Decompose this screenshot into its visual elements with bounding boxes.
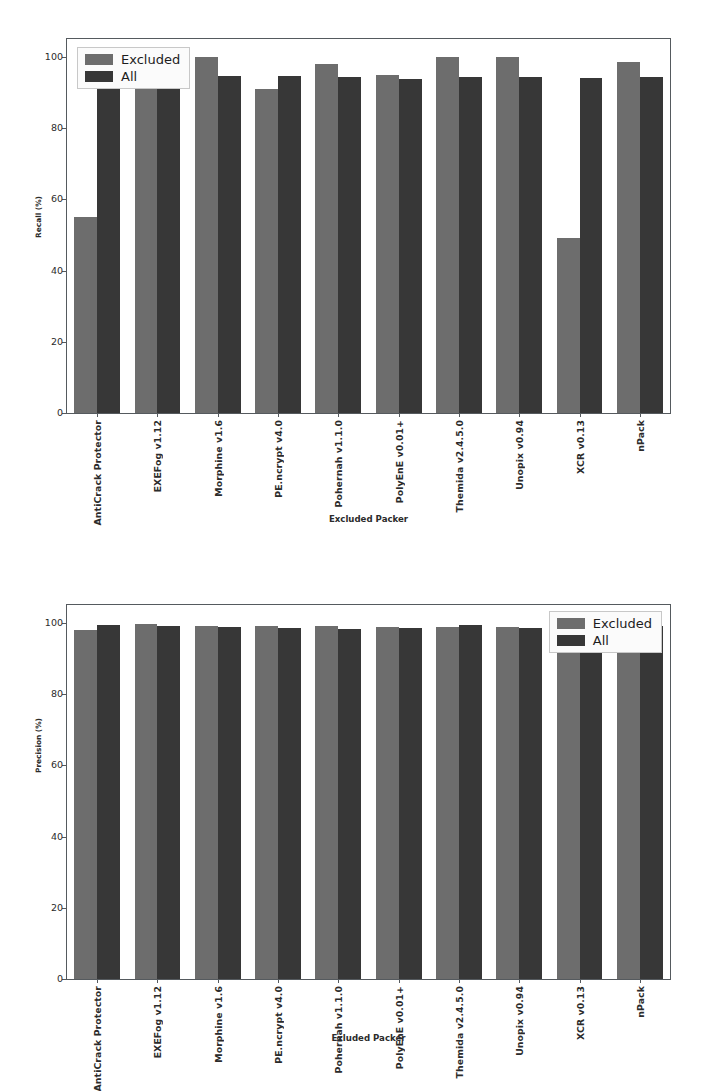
x-tick-label: Morphine v1.6 [213,420,224,497]
bar-all [157,626,180,979]
x-tick-label: PolyEnE v0.01+ [394,420,405,503]
y-tick-label: 0 [57,974,63,984]
bar-all [338,77,361,413]
bar-group [429,605,489,979]
x-tick-mark [218,979,219,983]
y-tick-label: 20 [51,337,63,347]
bar-group [248,605,308,979]
x-tick-mark [519,979,520,983]
x-tick-label: Pohernah v1.1.0 [333,420,344,508]
bar-all [338,629,361,979]
legend-label-excluded: Excluded [121,53,180,66]
x-tick-mark [338,413,339,417]
y-tick-label: 60 [51,761,63,771]
bar-group [308,39,368,413]
bar-excluded [496,57,519,413]
x-tick-mark [97,979,98,983]
bar-group [67,39,127,413]
x-tick-mark [580,413,581,417]
x-tick-label: Pohernah v1.1.0 [333,986,344,1074]
bar-group [188,39,248,413]
bar-excluded [135,69,158,413]
bar-group [549,605,609,979]
bar-all [640,626,663,979]
bar-excluded [315,64,338,413]
bar-group [610,39,670,413]
bar-excluded [195,57,218,413]
bar-excluded [376,627,399,979]
bar-excluded [617,627,640,979]
bar-group [489,39,549,413]
x-tick-mark [157,979,158,983]
x-tick-label: XCR v0.13 [575,420,586,474]
x-tick-mark [519,413,520,417]
x-tick-mark [278,979,279,983]
x-tick-mark [580,979,581,983]
x-tick-label: PE.ncrypt v4.0 [273,986,284,1064]
bar-all [218,76,241,413]
bar-all [459,625,482,979]
precision-axes: Excluded All 020406080100AntiCrack Prote… [66,604,671,980]
bar-excluded [436,627,459,979]
x-tick-mark [278,413,279,417]
legend-entry-all: All [85,70,180,83]
x-tick-mark [399,413,400,417]
bar-group [610,605,670,979]
y-tick-label: 100 [45,52,63,62]
legend-swatch-excluded-icon [85,54,113,65]
x-tick-mark [97,413,98,417]
x-tick-mark [338,979,339,983]
bar-excluded [496,627,519,979]
x-tick-mark [640,979,641,983]
bar-group [127,605,187,979]
recall-x-axis-title: Excluded Packer [66,514,671,524]
bar-excluded [195,626,218,979]
y-tick-label: 40 [51,832,63,842]
x-tick-mark [218,413,219,417]
recall-axes: Excluded All 020406080100AntiCrack Prote… [66,38,671,414]
bar-all [459,77,482,413]
x-tick-mark [640,413,641,417]
y-tick-label: 20 [51,903,63,913]
bar-excluded [557,238,580,413]
precision-plot-area [67,605,670,979]
recall-plot-area [67,39,670,413]
bar-all [97,78,120,413]
bar-group [188,605,248,979]
bar-excluded [617,62,640,413]
x-tick-label: Themida v2.4.5.0 [454,420,465,512]
legend-swatch-all-icon [85,71,113,82]
bar-all [580,626,603,979]
bar-all [519,77,542,413]
legend-entry-excluded: Excluded [85,53,180,66]
x-tick-label: nPack [635,420,646,452]
x-tick-label: PE.ncrypt v4.0 [273,420,284,498]
bar-group [308,605,368,979]
x-tick-label: Unopix v0.94 [514,420,525,490]
x-tick-mark [459,979,460,983]
bar-excluded [74,630,97,979]
precision-x-axis-title: Exluded Packer [66,1033,671,1043]
bar-group [127,39,187,413]
legend-entry-excluded: Excluded [557,617,652,630]
recall-legend: Excluded All [77,47,190,89]
bar-all [519,628,542,979]
bar-group [67,605,127,979]
y-tick-label: 80 [51,123,63,133]
x-tick-label: EXEFog v1.12 [152,420,163,492]
bar-group [248,39,308,413]
y-tick-label: 100 [45,618,63,628]
x-tick-label: AntiCrack Protector [92,420,103,525]
bar-excluded [135,624,158,979]
legend-label-excluded: Excluded [593,617,652,630]
x-tick-label: XCR v0.13 [575,986,586,1040]
bar-group [369,605,429,979]
y-tick-label: 0 [57,408,63,418]
bar-all [278,76,301,413]
bar-excluded [74,217,97,413]
bar-all [218,627,241,979]
y-tick-label: 40 [51,266,63,276]
bar-excluded [436,57,459,413]
legend-swatch-all-icon [557,635,585,646]
legend-swatch-excluded-icon [557,618,585,629]
